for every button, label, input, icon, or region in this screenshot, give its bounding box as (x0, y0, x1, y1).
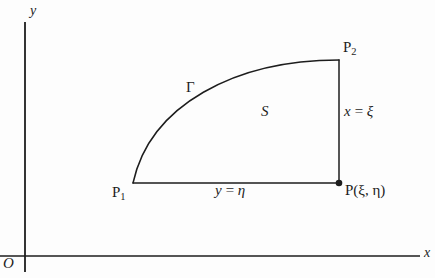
curve-gamma (133, 60, 339, 183)
diagram-canvas (0, 0, 435, 278)
vertical-edge-label: x=ξ (344, 104, 373, 119)
point-label-p: P(ξ, η) (345, 183, 385, 198)
vertical-edge-lhs: x (344, 103, 351, 119)
point-label-p2: P2 (343, 40, 357, 58)
curve-label-gamma: Γ (186, 80, 195, 95)
horizontal-edge-label: y=η (215, 183, 245, 198)
point-label-p1: P1 (112, 185, 126, 203)
horizontal-edge-rhs: η (238, 182, 245, 198)
horizontal-edge-lhs: y (215, 182, 222, 198)
y-axis-label: y (30, 4, 36, 18)
x-axis-label: x (424, 246, 430, 260)
horizontal-edge-operator: = (222, 182, 238, 198)
point-marker-p (336, 180, 343, 187)
region-label-s: S (261, 104, 269, 119)
origin-label: O (3, 256, 14, 271)
math-diagram-figure: y x O P1 P2 P(ξ, η) Γ S x=ξ y=η (0, 0, 435, 278)
vertical-edge-rhs: ξ (367, 103, 373, 119)
vertical-edge-operator: = (351, 103, 367, 119)
point-label-p1-subscript: 1 (120, 191, 125, 202)
point-label-p2-subscript: 2 (351, 46, 356, 57)
